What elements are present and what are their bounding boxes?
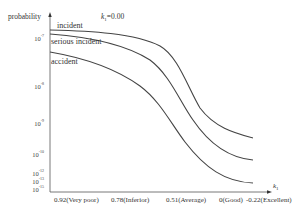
y-axis-label: probability: [8, 13, 41, 21]
x-tick-very-poor: 0.92(Very poor): [54, 196, 99, 204]
y-tick-1e-10: 10-10: [22, 148, 44, 158]
series-label-accident: accident: [51, 58, 78, 66]
series-incident-line: [50, 30, 253, 138]
chart-canvas: [0, 0, 308, 216]
y-tick-1e-7: 10-7: [22, 32, 44, 42]
x-axis-label: k1: [273, 182, 279, 193]
series-label-incident: incident: [57, 22, 83, 30]
k1-annotation: k1=0.00: [101, 13, 124, 24]
series-label-serious-incident: serious incident: [51, 38, 101, 46]
x-tick-good: 0(Good): [219, 196, 243, 204]
y-axis-arrow-icon: [48, 12, 51, 17]
y-tick-1e-9: 10-9: [22, 117, 44, 127]
series-accident-line: [50, 52, 253, 183]
x-tick-excellent: -0.22(Excellent): [246, 196, 292, 204]
x-axis-arrow-icon: [267, 190, 272, 193]
y-tick-1e-15: 10-15: [22, 183, 44, 193]
x-tick-average: 0.51(Average): [166, 196, 206, 204]
x-tick-inferior: 0.78(Inferior): [111, 196, 149, 204]
y-tick-1e-8: 10-8: [22, 80, 44, 90]
